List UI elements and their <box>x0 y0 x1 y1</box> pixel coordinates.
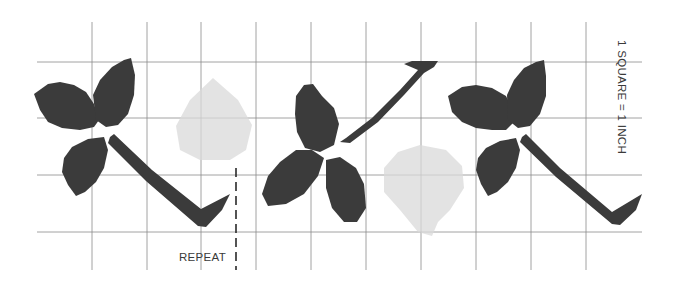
strawberry-outline <box>384 145 464 236</box>
leaf-shape <box>262 150 324 206</box>
leaf-motifs <box>34 58 642 227</box>
leaf-shape <box>34 82 99 130</box>
leaf-shape <box>448 85 514 130</box>
repeat-label: REPEAT <box>179 251 226 263</box>
leaf-shape <box>326 157 366 222</box>
leaf-shape <box>93 58 135 127</box>
leaf-shape <box>62 137 108 196</box>
leaf-shape <box>295 84 339 152</box>
stencil-diagram: REPEAT 1 SQUARE = 1 INCH <box>0 0 674 282</box>
stem-shape <box>340 61 438 143</box>
strawberry-outline <box>176 78 252 160</box>
leaf-cluster-right <box>448 60 642 225</box>
leaf-shape <box>476 138 520 196</box>
scale-label: 1 SQUARE = 1 INCH <box>616 40 628 154</box>
